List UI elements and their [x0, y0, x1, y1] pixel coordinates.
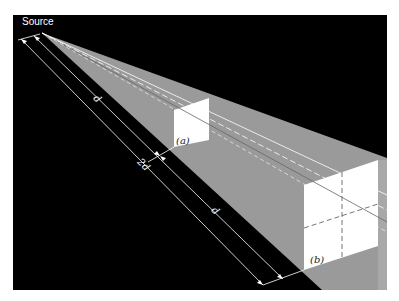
- inverse-square-diagram: [0, 0, 399, 301]
- box-b-label: (b): [310, 255, 324, 265]
- source-label: Source: [22, 17, 54, 27]
- box-b-side: [378, 160, 387, 290]
- box-a-label: (a): [176, 136, 190, 146]
